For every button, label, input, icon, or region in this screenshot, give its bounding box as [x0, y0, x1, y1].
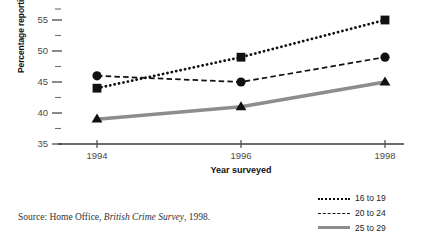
- dashed-line-swatch-icon: [318, 208, 350, 218]
- x-tick-label-1994: 1994: [86, 150, 107, 161]
- solid-line-swatch-icon: [318, 223, 350, 233]
- chart-legend: 16 to 19 20 to 24 25 to 29: [318, 190, 424, 235]
- legend-label-20-to-24: 20 to 24: [355, 208, 386, 218]
- x-axis-title: Year surveyed: [97, 165, 385, 175]
- x-tick-label-1998: 1998: [374, 150, 395, 161]
- legend-item-20-to-24: 20 to 24: [318, 205, 424, 220]
- chart-figure: Percentage reporting use 35 40 45 50 55: [0, 0, 424, 244]
- source-suffix: , 1998.: [184, 212, 210, 222]
- source-prefix: Source: Home Office,: [18, 212, 104, 222]
- x-tick-label-1996: 1996: [230, 150, 251, 161]
- dotted-line-swatch-icon: [318, 193, 350, 203]
- y-axis-minor-ticks: [55, 9, 61, 129]
- source-publication: British Crime Survey: [104, 212, 184, 222]
- legend-label-16-to-19: 16 to 19: [355, 193, 386, 203]
- legend-item-16-to-19: 16 to 19: [318, 190, 424, 205]
- legend-item-25-to-29: 25 to 29: [318, 220, 424, 235]
- source-note: Source: Home Office, British Crime Surve…: [18, 212, 210, 222]
- legend-label-25-to-29: 25 to 29: [355, 223, 386, 233]
- y-axis-major-ticks: [52, 20, 62, 144]
